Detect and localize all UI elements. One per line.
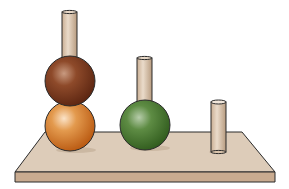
ball-brown bbox=[45, 56, 95, 106]
ball-orange bbox=[45, 101, 95, 151]
tower-of-london-figure bbox=[0, 0, 289, 189]
peg-3 bbox=[209, 100, 227, 154]
board-front-face bbox=[15, 172, 275, 182]
ball-green bbox=[120, 100, 170, 150]
